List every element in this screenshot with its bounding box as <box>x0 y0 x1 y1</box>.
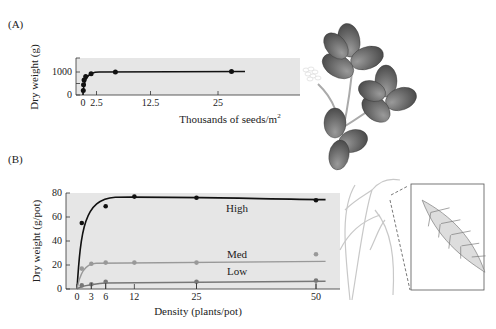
data-point <box>132 194 137 199</box>
x-tick-label: 12 <box>129 291 139 302</box>
series-label-low: Low <box>227 265 247 277</box>
y-tick-label: 0 <box>57 283 62 294</box>
y-tick-label: 80 <box>52 187 62 198</box>
data-point <box>79 283 84 288</box>
data-point <box>314 278 319 283</box>
y-tick-label: 40 <box>52 235 62 246</box>
data-point <box>89 262 94 267</box>
x-tick-label: 25 <box>192 291 202 302</box>
data-point <box>79 221 84 226</box>
series-label-high: High <box>226 202 249 214</box>
data-point <box>79 266 84 271</box>
x-axis-label: Density (plants/pot) <box>154 305 242 318</box>
y-tick-label: 20 <box>52 259 62 270</box>
y-tick-label: 60 <box>52 211 62 222</box>
x-tick-label: 50 <box>311 291 321 302</box>
x-tick-label: 3 <box>89 291 94 302</box>
series-label-med: Med <box>227 248 248 260</box>
data-point <box>314 198 319 203</box>
x-tick-label: 0 <box>75 291 80 302</box>
data-point <box>194 260 199 265</box>
x-tick-label: 6 <box>103 291 108 302</box>
data-point <box>103 204 108 209</box>
data-point <box>103 260 108 265</box>
data-point <box>314 252 319 257</box>
data-point <box>132 260 137 265</box>
y-axis-label: Dry weight (g/pot) <box>30 199 43 282</box>
chart-b: 020406080036122550Density (plants/pot)Dr… <box>0 0 496 329</box>
data-point <box>194 196 199 201</box>
